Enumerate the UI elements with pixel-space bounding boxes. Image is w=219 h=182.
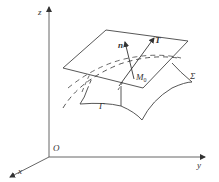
- tangent-plane-diagram: z O y x n T M0 Σ Γ: [0, 0, 219, 182]
- x-axis-label: x: [17, 166, 22, 176]
- surface-bottom-edge: [80, 103, 142, 120]
- surface-sigma-label: Σ: [189, 71, 196, 81]
- y-axis-label: y: [196, 160, 201, 170]
- surface-left-edge: [80, 90, 87, 104]
- z-axis-label: z: [37, 7, 42, 17]
- origin-label: O: [53, 143, 60, 153]
- normal-vector-label: n: [118, 40, 123, 50]
- tangent-vector-label: T: [155, 35, 161, 45]
- surface-right-lower-edge: [142, 82, 192, 120]
- curve-gamma-label: Γ: [98, 101, 105, 111]
- surface-right-upper-edge: [172, 63, 192, 82]
- x-axis: [10, 157, 49, 177]
